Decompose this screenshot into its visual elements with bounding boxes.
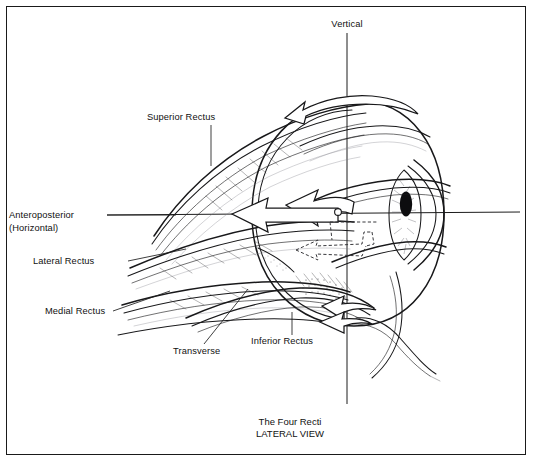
transverse-axis-rotation-arrow <box>296 232 374 260</box>
figure-root: Vertical Superior Rectus Anteroposterior… <box>0 0 534 463</box>
label-inferior-rectus: Inferior Rectus <box>251 336 313 346</box>
caption-line-2: LATERAL VIEW <box>256 428 324 439</box>
leader-transverse <box>204 289 248 344</box>
leader-lateral-rectus <box>128 249 186 261</box>
label-superior-rectus: Superior Rectus <box>147 112 215 122</box>
superior-rectus-muscle <box>152 104 430 264</box>
label-horizontal: (Horizontal) <box>9 223 58 233</box>
lateral-rectus-muscle <box>128 221 354 289</box>
eye-anatomy-diagram: Vertical Superior Rectus Anteroposterior… <box>0 0 534 463</box>
label-anteroposterior: Anteroposterior <box>9 210 74 220</box>
label-medial-rectus: Medial Rectus <box>45 306 105 316</box>
label-lateral-rectus: Lateral Rectus <box>33 256 95 266</box>
inferior-rotation-arrow <box>320 296 376 333</box>
label-vertical: Vertical <box>331 19 362 29</box>
pupil <box>400 192 412 217</box>
cornea <box>408 160 444 270</box>
leader-lines <box>107 33 347 344</box>
caption-line-1: The Four Recti <box>259 416 322 427</box>
label-transverse: Transverse <box>173 346 220 356</box>
center-of-rotation-pivot <box>335 209 342 216</box>
medial-rectus-muscle <box>118 282 350 335</box>
orbital-soft-tissue <box>352 272 440 381</box>
